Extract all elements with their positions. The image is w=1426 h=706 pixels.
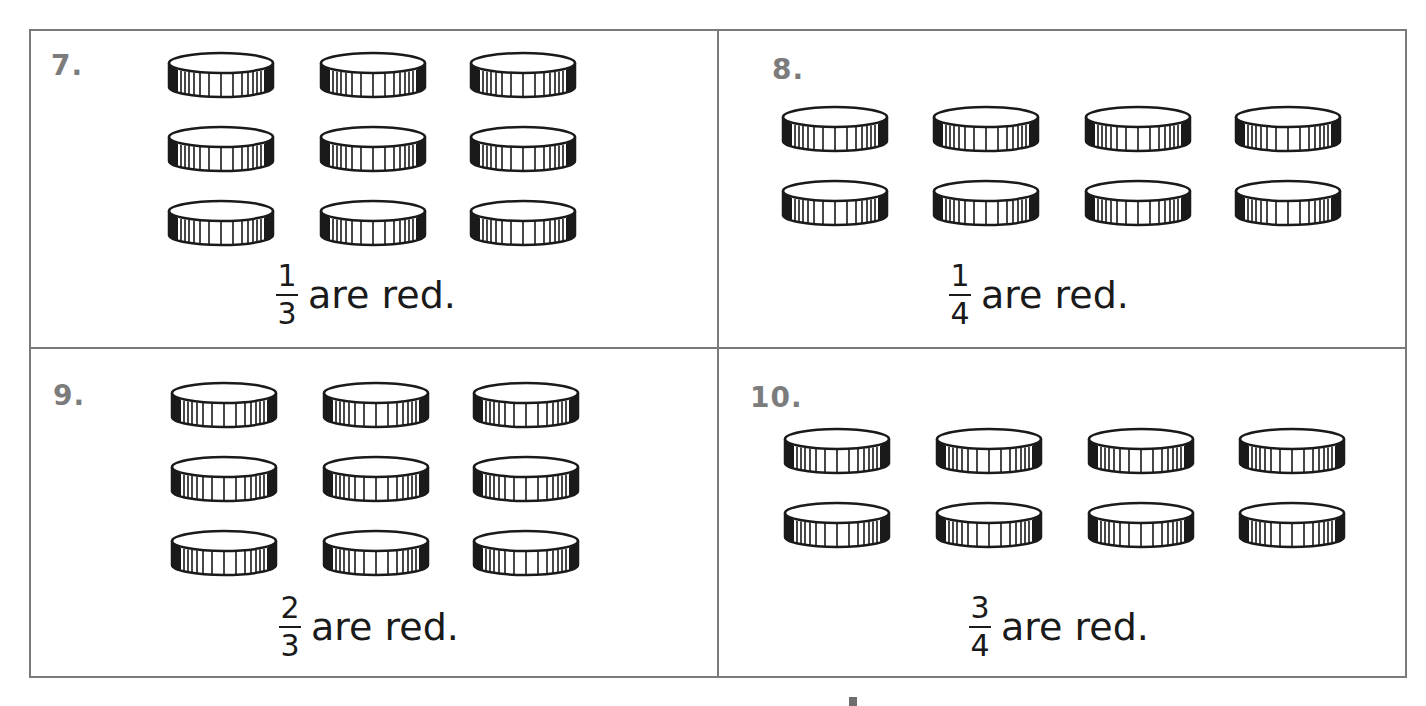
coin-icon: [318, 199, 428, 247]
coin-icon: [471, 455, 581, 503]
coin-icon: [471, 529, 581, 577]
coin-icon: [468, 125, 578, 173]
numerator: 1: [950, 261, 969, 291]
coin-icon: [782, 427, 892, 475]
denominator: 3: [280, 631, 299, 661]
coin-icon: [471, 381, 581, 429]
coin-icon: [166, 125, 276, 173]
vertical-divider: [717, 31, 719, 676]
coin-icon: [1233, 105, 1343, 153]
fraction: 1 3: [276, 261, 298, 329]
coin-icon: [1086, 501, 1196, 549]
coin-icon: [166, 199, 276, 247]
fraction-caption: 2 3 are red.: [279, 593, 459, 661]
problem-number: 10.: [750, 381, 803, 414]
caption-text: are red.: [311, 605, 459, 649]
page-edge-mark: [849, 697, 857, 706]
coin-icon: [166, 51, 276, 99]
coin-icon: [1086, 427, 1196, 475]
caption-text: are red.: [308, 273, 456, 317]
problem-number: 7.: [51, 49, 83, 82]
coin-icon: [780, 179, 890, 227]
coin-icon: [169, 455, 279, 503]
coin-icon: [1233, 179, 1343, 227]
fraction-caption: 3 4 are red.: [969, 593, 1149, 661]
coin-icon: [318, 125, 428, 173]
coin-icon: [780, 105, 890, 153]
coin-icon: [468, 199, 578, 247]
worksheet-grid: 7. 1 3 are red. 8. 1: [29, 29, 1407, 678]
fraction-caption: 1 3 are red.: [276, 261, 456, 329]
coin-icon: [321, 381, 431, 429]
coin-icon: [931, 179, 1041, 227]
coin-icon: [321, 455, 431, 503]
fraction: 2 3: [279, 593, 301, 661]
problem-number: 9.: [53, 379, 85, 412]
coin-icon: [169, 381, 279, 429]
caption-text: are red.: [1001, 605, 1149, 649]
coin-icon: [931, 105, 1041, 153]
fraction: 1 4: [949, 261, 971, 329]
coin-icon: [468, 51, 578, 99]
numerator: 1: [277, 261, 296, 291]
fraction: 3 4: [969, 593, 991, 661]
coin-icon: [169, 529, 279, 577]
coin-icon: [1237, 501, 1347, 549]
problem-number: 8.: [772, 53, 804, 86]
coin-icon: [1237, 427, 1347, 475]
coin-icon: [934, 427, 1044, 475]
horizontal-divider: [31, 347, 1405, 349]
denominator: 4: [970, 631, 989, 661]
coin-icon: [1083, 179, 1193, 227]
coin-icon: [782, 501, 892, 549]
coin-icon: [934, 501, 1044, 549]
fraction-caption: 1 4 are red.: [949, 261, 1129, 329]
denominator: 4: [950, 299, 969, 329]
numerator: 2: [280, 593, 299, 623]
numerator: 3: [970, 593, 989, 623]
coin-icon: [1083, 105, 1193, 153]
caption-text: are red.: [981, 273, 1129, 317]
denominator: 3: [277, 299, 296, 329]
coin-icon: [321, 529, 431, 577]
coin-icon: [318, 51, 428, 99]
